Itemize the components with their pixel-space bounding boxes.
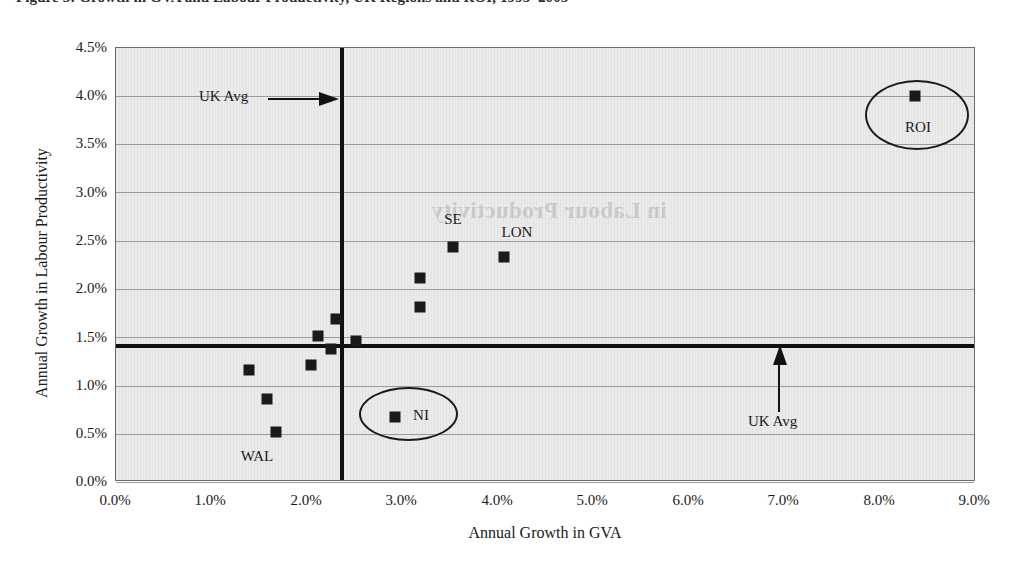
y-tick-label: 1.5% <box>76 329 107 346</box>
uk-avg-arrow-shaft-vertical <box>268 98 324 100</box>
x-tick-label: 5.0% <box>576 492 607 509</box>
y-tick-label: 3.0% <box>76 184 107 201</box>
x-tick-label: 7.0% <box>767 492 798 509</box>
data-point <box>271 427 282 438</box>
uk-avg-arrowhead-right-icon <box>319 89 341 109</box>
gridline <box>116 337 974 338</box>
gridline <box>116 144 974 145</box>
point-label-wal: WAL <box>241 448 274 465</box>
point-label-roi: ROI <box>905 119 931 136</box>
x-tick-label: 9.0% <box>958 492 989 509</box>
gridline <box>116 434 974 435</box>
x-tick-label: 8.0% <box>863 492 894 509</box>
uk-avg-arrow-shaft-horizontal <box>778 360 780 412</box>
gridline <box>116 386 974 387</box>
y-tick-label: 2.5% <box>76 232 107 249</box>
x-tick-label: 1.0% <box>194 492 225 509</box>
y-tick-label: 3.5% <box>76 135 107 152</box>
uk-avg-label-horizontal: UK Avg <box>748 413 797 430</box>
x-tick-label: 0.0% <box>99 492 130 509</box>
data-point <box>499 252 510 263</box>
x-tick-label: 4.0% <box>481 492 512 509</box>
x-axis-title: Annual Growth in GVA <box>115 524 975 542</box>
y-tick-label: 4.0% <box>76 87 107 104</box>
y-tick-label: 0.5% <box>76 425 107 442</box>
data-point <box>448 242 459 253</box>
uk-avg-label-vertical: UK Avg <box>199 88 248 105</box>
data-point <box>331 314 342 325</box>
plot-texture <box>116 48 974 480</box>
data-point <box>326 344 337 355</box>
data-point <box>910 91 921 102</box>
reference-line-horizontal-uk-avg <box>116 344 974 348</box>
data-point <box>415 302 426 313</box>
gridline <box>116 289 974 290</box>
point-label-lon: LON <box>502 224 533 241</box>
plot-area: in Labour Productivity WAL SE LON ROI NI… <box>115 47 975 481</box>
watermark-text: in Labour Productivity <box>334 198 764 224</box>
gridline <box>116 192 974 193</box>
data-point <box>262 394 273 405</box>
data-point <box>313 331 324 342</box>
y-tick-label: 2.0% <box>76 280 107 297</box>
y-tick-label: 0.0% <box>76 473 107 490</box>
data-point <box>306 360 317 371</box>
reference-line-vertical-uk-avg <box>340 48 344 480</box>
x-tick-label: 2.0% <box>290 492 321 509</box>
point-label-ni: NI <box>413 407 429 424</box>
y-axis-title: Annual Growth in Labour Productivity <box>33 63 51 483</box>
data-point <box>244 365 255 376</box>
point-label-se: SE <box>444 211 462 228</box>
highlight-ellipse-ni <box>359 387 458 441</box>
uk-avg-arrowhead-up-icon <box>770 345 790 367</box>
data-point <box>351 336 362 347</box>
y-tick-label: 1.0% <box>76 377 107 394</box>
data-point <box>390 412 401 423</box>
y-tick-label: 4.5% <box>76 39 107 56</box>
x-tick-label: 6.0% <box>672 492 703 509</box>
scatter-chart: Annual Growth in Labour Productivity 4.5… <box>0 0 1032 580</box>
data-point <box>415 273 426 284</box>
gridline <box>116 482 974 483</box>
gridline <box>116 241 974 242</box>
x-tick-label: 3.0% <box>385 492 416 509</box>
